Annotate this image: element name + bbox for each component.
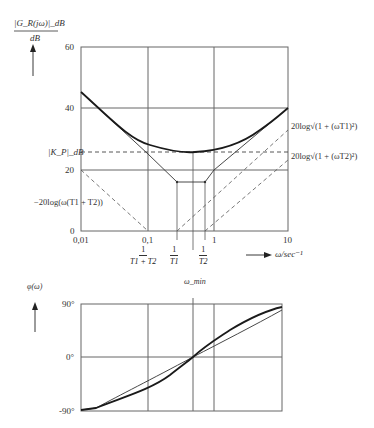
phase-ylabel: φ(ω) [27,283,42,291]
phase-tick-minus90: -90° [59,407,75,416]
omega-min-label: ω_min [184,278,206,286]
phase-frame [81,298,282,411]
magnitude-frame [81,47,288,231]
phase-tick-0: 0° [66,353,74,362]
corner-num: 1 [170,245,178,256]
magnitude-y-arrow [30,44,36,76]
phase-exact-curve [81,307,282,410]
x-tick-10: 10 [283,236,292,245]
corner-num: 1 [139,245,147,256]
bode-diagram [0,0,374,428]
corner-den: T2 [199,256,207,266]
magnitude-ylabel-top: |G_R(jω)|_dB [14,19,65,28]
x-tick-0.1: 0,1 [142,236,153,245]
corner-label-t1: 1 T1 [170,245,178,266]
phase-y-arrow [32,302,38,332]
phase-tick-90: 90° [62,300,75,309]
asymptotic-magnitude-line [81,92,288,182]
kp-label: |K_P|_dB [48,148,83,157]
corner-num: 1 [199,245,207,256]
x-tick-0.01: 0,01 [73,236,89,245]
y-tick-40: 40 [65,104,74,113]
x-axis-label: ω/sec⁻¹ [275,250,303,259]
corner-den: T1 + T2 [130,256,156,266]
y-tick-60: 60 [65,43,74,52]
corner-label-t2: 1 T2 [199,245,207,266]
exact-magnitude-curve [81,92,288,152]
y-tick-20: 20 [65,166,74,175]
corner-den: T1 [170,256,178,266]
x-tick-1: 1 [212,236,217,245]
magnitude-ylabel-bottom: dB [30,34,40,43]
x-axis-arrow [246,252,272,258]
corner-verticals [177,152,205,250]
dashed-asymptotes [81,130,288,231]
corner-label-t1-plus-t2: 1 T1 + T2 [130,245,156,266]
asymptote-t2-label: 20log√(1 + (ωT2)²) [291,152,357,161]
asymptote-low-label: −20log(ω(T1 + T2)) [34,198,103,207]
asymptote-t1-label: 20log√(1 + (ωT1)²) [291,122,357,131]
phase-approx-line [81,310,282,410]
